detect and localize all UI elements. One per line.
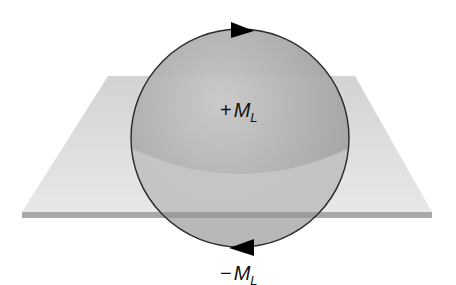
label-plus-ml: +ML (220, 100, 258, 124)
label-minus-ml: −ML (220, 263, 258, 285)
sphere-upper (120, 20, 360, 270)
diagram: +ML −ML (0, 0, 456, 285)
